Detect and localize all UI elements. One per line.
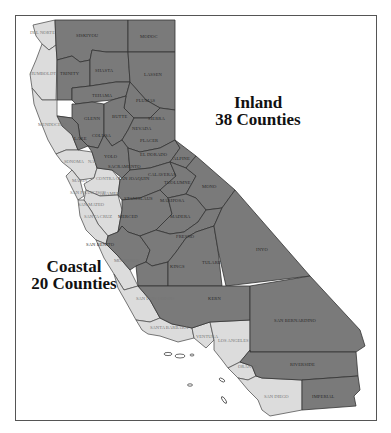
label-del-norte: DEL NORTE [30,30,55,35]
label-shasta: SHASTA [95,68,114,73]
label-siskiyou: SISKIYOU [76,33,99,38]
label-mono: MONO [202,184,217,189]
island [188,384,193,386]
label-santa-cruz: SANTA CRUZ [84,214,112,219]
label-plumas: PLUMAS [136,98,156,103]
label-marin: MARIN [72,178,88,183]
label-madera: MADERA [170,214,191,219]
label-riverside: RIVERSIDE [290,362,315,367]
label-placer: PLACER [140,138,159,143]
label-napa: NAP [88,159,98,164]
label-merced: MERCED [118,214,138,219]
label-ventura: VENTURA [196,334,219,339]
coastal-region-name: Coastal [24,258,124,275]
label-san-bernardino: SAN BERNARDINO [274,318,316,323]
label-san-mateo: SAN MATEO [78,202,105,207]
label-tehama: TEHAMA [92,93,113,98]
island [219,377,226,382]
label-san-luis-obispo: SAN LUIS OBISPO [136,296,175,301]
label-orange: ORANGE [238,364,257,369]
label-fresno: FRESNO [176,234,195,239]
label-humboldt: HUMBOLDT [30,71,56,76]
label-san-diego: SAN DIEGO [264,394,289,399]
county-imperial [302,376,360,410]
label-trinity: TRINITY [60,71,80,76]
label-colusa: COLUSA [92,133,112,138]
coastal-county-count: 20 Counties [24,275,124,292]
label-tulare: TULARE [202,260,221,265]
label-los-angeles: LOS ANGELES [218,338,249,343]
label-mariposa: MARIPOSA [160,198,185,203]
label-yolo: YOLO [104,154,118,159]
label-inyo: INYO [256,247,268,252]
inland-region-label: Inland 38 Counties [208,94,308,128]
label-butte: BUTTE [112,114,127,119]
inland-region-name: Inland [208,94,308,111]
label-santa-barbara: SANTA BARBARA [150,325,189,330]
label-calaveras: CALAVERAS [148,172,176,177]
inland-county-count: 38 Counties [208,111,308,128]
label-mendocino: MENDOCINO [38,122,67,127]
county-inyo [214,190,310,286]
county-san-bernardino [250,276,365,352]
label-nevada: NEVADA [132,126,152,131]
label-sierra: SIERRA [148,116,166,121]
label-san-joaquin: SAN JOAQUIN [118,176,150,181]
island [190,354,194,356]
island [164,352,172,355]
label-stanislaus: STANISLAUS [124,196,153,201]
label-sonoma: SONOMA [64,159,85,164]
label-san-benito: SAN BENITO [86,242,115,247]
island [221,396,228,404]
label-kings: KINGS [170,264,185,269]
label-el-dorado: EL DORADO [140,152,168,157]
label-alameda: ALAMEDA [100,191,124,196]
county-del-norte [33,20,56,50]
county-kings [136,262,168,286]
island [175,354,185,358]
california-county-map: DEL NORTE SISKIYOU MODOC HUMBOLDT TRINIT… [0,0,391,433]
label-tuolumne: TUOLUMNE [164,180,191,185]
label-alpine: ALPINE [173,156,190,161]
label-imperial: IMPERIAL [312,394,335,399]
label-sacramento: SACRAMENTO [108,164,141,169]
label-modoc: MODOC [140,34,158,39]
label-lake: LAKE [74,136,87,141]
label-kern: KERN [208,296,221,301]
label-lassen: LASSEN [144,72,163,77]
label-glenn: GLENN [84,116,101,121]
coastal-region-label: Coastal 20 Counties [24,258,124,292]
